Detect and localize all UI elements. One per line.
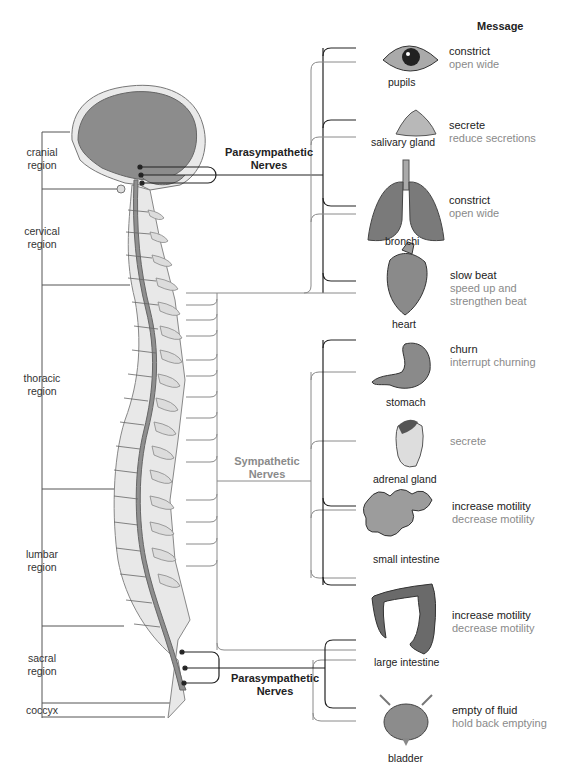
organ-label-adrenal-gland: adrenal gland — [373, 473, 437, 485]
parasympathetic-nerves-label-bottom: Parasympathetic Nerves — [220, 672, 330, 698]
eye-icon — [383, 46, 438, 71]
region-word: region — [27, 238, 56, 250]
region-label-coccyx: coccyx — [20, 704, 64, 717]
heart-icon — [387, 242, 427, 315]
message-pupils: constrict open wide — [449, 45, 499, 71]
large-intestine-icon — [372, 584, 436, 654]
parasympathetic-message: slow beat — [450, 269, 526, 282]
parasympathetic-message: empty of fluid — [452, 704, 547, 717]
organ-label-bladder: bladder — [388, 752, 423, 764]
sympathetic-message: speed up and — [450, 282, 526, 295]
region-word: region — [27, 665, 56, 677]
region-name: coccyx — [26, 704, 58, 716]
region-name: thoracic — [24, 372, 61, 384]
parasympathetic-message: secrete — [449, 119, 536, 132]
sympathetic-message-cont: strengthen beat — [450, 295, 526, 308]
region-label-lumbar: lumbar region — [20, 548, 64, 574]
message-large-intestine: increase motility decrease motility — [452, 609, 535, 635]
sympathetic-message: secrete — [450, 435, 486, 448]
nerve-label-line: Nerves — [257, 685, 294, 697]
sympathetic-message: decrease motility — [452, 622, 535, 635]
nerve-label-line: Parasympathetic — [225, 146, 313, 158]
head-illustration — [72, 85, 205, 193]
message-header: Message — [477, 20, 523, 32]
nerve-label-line: Nerves — [249, 468, 286, 480]
parasympathetic-message: churn — [450, 343, 536, 356]
nervous-system-diagram — [0, 0, 564, 783]
message-stomach: churn interrupt churning — [450, 343, 536, 369]
region-name: cranial — [27, 146, 58, 158]
region-label-cervical: cervical region — [20, 225, 64, 251]
sympathetic-message: open wide — [449, 207, 499, 220]
nerve-label-line: Sympathetic — [234, 455, 299, 467]
organ-label-small-intestine: small intestine — [373, 553, 440, 565]
sympathetic-message: reduce secretions — [449, 132, 536, 145]
sympathetic-message: hold back emptying — [452, 717, 547, 730]
nerve-label-line: Nerves — [251, 159, 288, 171]
parasympathetic-message: constrict — [449, 194, 499, 207]
organ-label-salivary-gland: salivary gland — [371, 136, 435, 148]
region-name: sacral — [28, 652, 56, 664]
sympathetic-message: decrease motility — [452, 513, 535, 526]
message-bronchi: constrict open wide — [449, 194, 499, 220]
message-salivary-gland: secrete reduce secretions — [449, 119, 536, 145]
message-bladder: empty of fluid hold back emptying — [452, 704, 547, 730]
stomach-icon — [372, 343, 430, 388]
region-label-cranial: cranial region — [20, 146, 64, 172]
sympathetic-message: open wide — [449, 58, 499, 71]
region-word: region — [27, 159, 56, 171]
organ-label-stomach: stomach — [386, 396, 426, 408]
spine-illustration — [114, 180, 190, 718]
bladder-icon — [380, 695, 432, 746]
parasympathetic-middle-lines — [323, 340, 356, 585]
small-intestine-icon — [363, 489, 432, 536]
organ-label-pupils: pupils — [388, 76, 415, 88]
lungs-icon — [368, 160, 444, 241]
organ-label-heart: heart — [392, 318, 416, 330]
region-label-thoracic: thoracic region — [20, 372, 64, 398]
adrenal-kidney-icon — [396, 420, 423, 467]
region-word: region — [27, 561, 56, 573]
organ-label-large-intestine: large intestine — [374, 656, 439, 668]
parasympathetic-message: increase motility — [452, 500, 535, 513]
message-adrenal-gland: secrete — [450, 435, 486, 448]
region-word: region — [27, 385, 56, 397]
sympathetic-message: interrupt churning — [450, 356, 536, 369]
sympathetic-nerves-label: Sympathetic Nerves — [222, 455, 312, 481]
parasympathetic-message: constrict — [449, 45, 499, 58]
message-heart: slow beat speed up and strengthen beat — [450, 269, 526, 308]
nerve-label-line: Parasympathetic — [231, 672, 319, 684]
message-small-intestine: increase motility decrease motility — [452, 500, 535, 526]
region-name: lumbar — [26, 548, 58, 560]
salivary-gland-icon — [396, 110, 436, 136]
region-label-sacral: sacral region — [20, 652, 64, 678]
parasympathetic-message: increase motility — [452, 609, 535, 622]
organ-label-bronchi: bronchi — [385, 235, 419, 247]
region-name: cervical — [24, 225, 60, 237]
parasympathetic-nerves-label-top: Parasympathetic Nerves — [214, 146, 324, 172]
